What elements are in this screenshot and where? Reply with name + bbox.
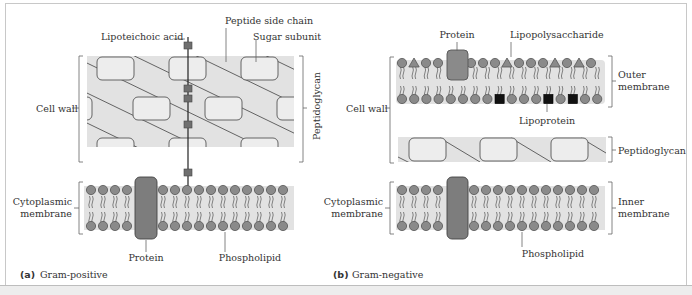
label-protein-b: Protein [439,29,474,40]
label-cytoplasmic-membrane-b-2: membrane [331,208,383,219]
label-lipopolysaccharide: Lipopolysaccharide [510,29,604,40]
inner-membrane-protein [447,177,468,239]
label-cytoplasmic-membrane-a-1: Cytoplasmic [13,196,72,207]
membrane-protein-a [135,177,157,239]
label-peptidoglycan-b: Peptidoglycan [618,145,686,156]
label-lipoteichoic-acid: Lipoteichoic acid [101,31,183,42]
label-inner-membrane-1: Inner [618,196,645,207]
label-cell-wall-a: Cell wall [36,103,78,114]
label-outer-membrane-1: Outer [618,69,646,80]
label-protein-a: Protein [128,252,163,263]
caption-letter-b: (b) [333,269,348,280]
caption-letter-a: (a) [20,269,35,280]
label-cytoplasmic-membrane-a-2: membrane [20,208,72,219]
sugar-subunits-b [409,138,588,161]
outer-membrane-protein [447,50,468,80]
caption-gram-positive: Gram-positive [40,269,108,280]
caption-gram-negative: Gram-negative [352,269,424,280]
label-peptidoglycan-a: Peptidoglycan [311,72,322,140]
label-inner-membrane-2: membrane [618,208,670,219]
label-outer-membrane-2: membrane [618,81,670,92]
label-lipoprotein: Lipoprotein [519,115,575,126]
label-peptide-side-chain: Peptide side chain [225,15,313,26]
label-sugar-subunit: Sugar subunit [253,31,321,42]
panel-gram-negative: Protein Lipopolysaccharide Outer membran… [324,29,686,280]
label-cell-wall-b: Cell wall [346,103,388,114]
label-phospholipid-a: Phospholipid [219,252,281,263]
label-phospholipid-b: Phospholipid [522,248,584,259]
label-cytoplasmic-membrane-b-1: Cytoplasmic [324,196,383,207]
